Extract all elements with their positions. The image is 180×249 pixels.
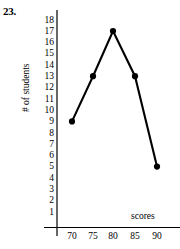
x-tick-label: 85 [124, 232, 146, 242]
x-tick-label: 90 [146, 232, 168, 242]
x-tick-label: 70 [61, 232, 83, 242]
figure-container: 23. 18 17 16 15 14 13 12 11 10 9 8 7 6 5 [0, 0, 180, 249]
x-tick-label: 75 [82, 232, 104, 242]
x-tick-label: 80 [102, 232, 124, 242]
x-axis-title: scores [131, 212, 155, 222]
y-axis-title: # of students [20, 36, 32, 112]
